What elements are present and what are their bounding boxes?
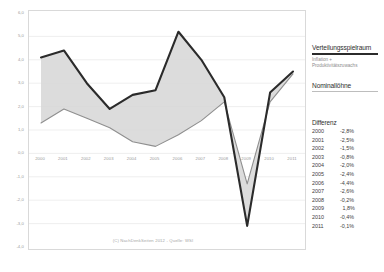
difference-row-value: -2,5% — [340, 137, 370, 143]
difference-row-value: -0,2% — [340, 197, 370, 203]
chart-container: 6,05,04,03,02,01,00,0-1,0-2,0-3,0-4,0 20… — [0, 0, 384, 272]
difference-table-title: Differenz — [312, 119, 337, 126]
difference-row-year: 2008 — [312, 197, 324, 203]
difference-table: 2000-2,8%2001-2,5%2002-1,5%2003-0,8%2004… — [312, 128, 374, 231]
y-axis-tick-label: 3,0 — [0, 80, 24, 85]
difference-row-value: -2,8% — [340, 128, 370, 134]
difference-table-row: 2005-2,4% — [312, 171, 374, 180]
chart-svg — [29, 11, 305, 249]
difference-row-year: 2000 — [312, 128, 324, 134]
y-axis-tick-label: -3,0 — [0, 220, 24, 225]
difference-row-year: 2001 — [312, 137, 324, 143]
y-axis-tick-label: 1,0 — [0, 127, 24, 132]
difference-row-year: 2003 — [312, 154, 324, 160]
difference-table-row: 2002-1,5% — [312, 145, 374, 154]
difference-row-year: 2009 — [312, 205, 324, 211]
difference-table-row: 2008-0,2% — [312, 197, 374, 206]
x-axis-tick-label: 2011 — [278, 156, 306, 161]
difference-row-year: 2005 — [312, 171, 324, 177]
difference-row-value: -4,4% — [340, 180, 370, 186]
difference-row-year: 2010 — [312, 214, 324, 220]
difference-row-value: -0,4% — [340, 214, 370, 220]
y-axis-tick-label: 5,0 — [0, 33, 24, 38]
legend-swatch-nominalloehne — [312, 91, 378, 92]
y-axis-tick-label: 4,0 — [0, 56, 24, 61]
difference-row-value: -1,5% — [340, 145, 370, 151]
difference-row-year: 2004 — [312, 162, 324, 168]
difference-row-value: -2,6% — [340, 188, 370, 194]
difference-table-row: 20091,8% — [312, 205, 374, 214]
chart-credit: (C) NachDenkSeiten 2012 - Quelle: WSI — [0, 238, 306, 243]
difference-table-row: 2007-2,6% — [312, 188, 374, 197]
legend-title-nominalloehne: Nominallöhne — [312, 82, 351, 89]
difference-table-row: 2004-2,0% — [312, 162, 374, 171]
difference-row-year: 2002 — [312, 145, 324, 151]
difference-table-row: 2003-0,8% — [312, 154, 374, 163]
difference-row-year: 2006 — [312, 180, 324, 186]
legend-swatch-verteilungsspielraum — [312, 53, 378, 55]
y-axis-tick-label: -2,0 — [0, 197, 24, 202]
y-axis-tick-label: 0,0 — [0, 150, 24, 155]
difference-table-row: 2006-4,4% — [312, 180, 374, 189]
legend-title-verteilungsspielraum: Verteilungsspielraum — [312, 44, 371, 51]
difference-row-year: 2011 — [312, 223, 324, 229]
legend-subtitle-line1: Inflation + — [312, 57, 332, 62]
difference-row-year: 2007 — [312, 188, 324, 194]
y-axis-tick-label: -1,0 — [0, 173, 24, 178]
difference-table-row: 2011-0,1% — [312, 223, 374, 232]
difference-row-value: -0,8% — [340, 154, 370, 160]
plot-area — [28, 10, 306, 250]
difference-table-row: 2010-0,4% — [312, 214, 374, 223]
y-axis-tick-label: 6,0 — [0, 10, 24, 15]
legend-panel: Verteilungsspielraum Inflation + Produkt… — [312, 0, 384, 272]
difference-row-value: -2,4% — [340, 171, 370, 177]
difference-row-value: 1,8% — [340, 205, 372, 211]
difference-row-value: -0,1% — [340, 223, 370, 229]
y-axis-tick-label: -4,0 — [0, 244, 24, 249]
y-axis-tick-label: 2,0 — [0, 103, 24, 108]
legend-subtitle-line2: Produktivitätszuwachs — [312, 63, 357, 68]
difference-table-row: 2000-2,8% — [312, 128, 374, 137]
difference-table-row: 2001-2,5% — [312, 137, 374, 146]
difference-row-value: -2,0% — [340, 162, 370, 168]
